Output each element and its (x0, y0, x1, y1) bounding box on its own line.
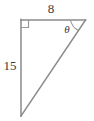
right-angle-marker-icon (21, 20, 29, 28)
side-length-label-left: 15 (1, 59, 19, 72)
triangle-side-hypotenuse (21, 20, 86, 116)
side-length-label-top: 8 (44, 2, 58, 15)
geometry-figure: 8 15 θ (0, 0, 94, 121)
angle-label-theta: θ (61, 24, 73, 35)
